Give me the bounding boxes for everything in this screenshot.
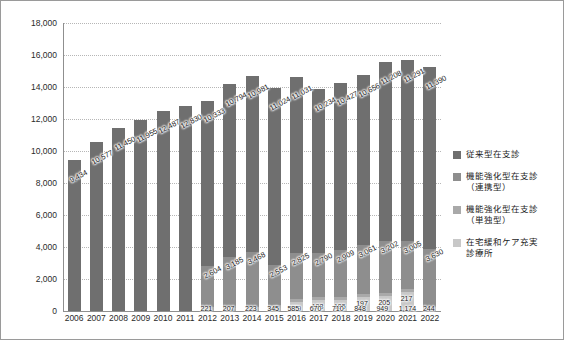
bar-segment — [246, 252, 259, 307]
bar-segment — [379, 241, 392, 292]
bar-segment — [201, 101, 214, 266]
bar-segment — [201, 266, 214, 308]
bar-segment — [334, 250, 347, 297]
bar-segment — [290, 77, 303, 253]
bar-segment — [423, 67, 436, 249]
bar-column[interactable] — [246, 76, 259, 311]
bar-column[interactable] — [423, 67, 436, 311]
bar-column[interactable] — [312, 89, 325, 311]
bar-column[interactable] — [201, 101, 214, 312]
x-axis-tick-label: 2009 — [131, 313, 150, 323]
x-axis-tick-label: 2013 — [220, 313, 239, 323]
bar-segment — [290, 253, 303, 298]
bar-segment — [312, 253, 325, 298]
bar-segment — [379, 296, 392, 311]
bar-segment — [290, 302, 303, 311]
bar-column[interactable] — [223, 84, 236, 311]
bar-column[interactable] — [334, 83, 347, 311]
bar-segment — [268, 88, 281, 264]
x-axis-tick-label: 2006 — [65, 313, 84, 323]
bar-segment — [423, 307, 436, 311]
bar-segment — [246, 76, 259, 252]
legend-swatch-icon — [453, 239, 461, 247]
y-axis-tick-label: 6,000 — [36, 210, 57, 220]
x-axis-tick-label: 2015 — [265, 313, 284, 323]
bar-segment — [401, 241, 414, 289]
y-axis-tick-label: 0 — [52, 306, 57, 316]
y-axis-tick-label: 14,000 — [31, 82, 57, 92]
gridline — [63, 311, 441, 312]
x-axis-tick-label: 2007 — [87, 313, 106, 323]
bar-column[interactable] — [268, 88, 281, 311]
bar-series-layer: 9,43410,57711,45011,95512,48712,83010,33… — [63, 23, 441, 311]
legend-item-label: 在宅緩和ケア充実診療所 — [466, 237, 538, 259]
y-axis-tick-label: 10,000 — [31, 146, 57, 156]
bar-segment — [223, 308, 236, 311]
bar-column[interactable] — [179, 106, 192, 311]
bar-segment — [268, 305, 281, 311]
x-axis-tick-label: 2018 — [331, 313, 350, 323]
x-axis-tick-label: 2016 — [287, 313, 306, 323]
chart-container: 02,0004,0006,0008,00010,00012,00014,0001… — [0, 0, 564, 340]
legend-item-label: 機能強化型在支診（連携型） — [466, 171, 538, 193]
bar-segment — [357, 245, 370, 294]
x-axis-tick-label: 2017 — [309, 313, 328, 323]
legend-item[interactable]: 従来型在支診 — [453, 149, 561, 160]
bar-segment — [223, 84, 236, 257]
bar-segment — [268, 265, 281, 306]
legend-item-label: 機能強化型在支診（単独型） — [466, 204, 538, 226]
x-axis-tick-label: 2010 — [154, 313, 173, 323]
x-axis-tick-label: 2014 — [243, 313, 262, 323]
bar-segment — [246, 307, 259, 311]
bar-segment — [312, 300, 325, 311]
x-axis-tick-label: 2020 — [376, 313, 395, 323]
x-axis-tick-labels: 2006200720082009201020112012201320142015… — [63, 313, 441, 329]
bar-column[interactable] — [290, 77, 303, 311]
legend-swatch-icon — [453, 206, 461, 214]
x-axis-tick-label: 2022 — [420, 313, 439, 323]
bar-segment — [357, 297, 370, 311]
bar-segment — [357, 75, 370, 245]
legend-item[interactable]: 機能強化型在支診（連携型） — [453, 171, 561, 193]
y-axis-tick-label: 18,000 — [31, 18, 57, 28]
bar-column[interactable] — [68, 160, 81, 311]
bar-segment — [379, 62, 392, 241]
y-axis-tick-labels: 02,0004,0006,0008,00010,00012,00014,0001… — [1, 23, 63, 311]
bar-segment — [90, 142, 103, 311]
y-axis-tick-label: 16,000 — [31, 50, 57, 60]
bar-segment — [112, 128, 125, 311]
plot-area: 9,43410,57711,45011,95512,48712,83010,33… — [63, 23, 441, 311]
bar-segment — [423, 249, 436, 307]
bar-column[interactable] — [112, 128, 125, 311]
y-axis-tick-label: 4,000 — [36, 242, 57, 252]
bar-segment — [157, 111, 170, 311]
legend-item-label: 従来型在支診 — [466, 149, 520, 160]
bar-segment — [401, 60, 414, 241]
x-axis-tick-label: 2012 — [198, 313, 217, 323]
x-axis-tick-label: 2008 — [109, 313, 128, 323]
x-axis-tick-label: 2019 — [354, 313, 373, 323]
legend-swatch-icon — [453, 151, 461, 159]
bar-column[interactable] — [379, 62, 392, 311]
bar-column[interactable] — [357, 75, 370, 311]
x-axis-tick-label: 2021 — [398, 313, 417, 323]
bar-segment — [68, 160, 81, 311]
bar-segment — [334, 300, 347, 311]
bar-segment — [179, 106, 192, 311]
x-axis-tick-label: 2011 — [176, 313, 194, 323]
bar-segment — [134, 120, 147, 311]
bar-column[interactable] — [90, 142, 103, 311]
bar-segment — [334, 83, 347, 250]
y-axis-tick-label: 8,000 — [36, 178, 57, 188]
y-axis-tick-label: 2,000 — [36, 274, 57, 284]
bar-segment — [223, 257, 236, 308]
legend-swatch-icon — [453, 173, 461, 181]
bar-column[interactable] — [134, 120, 147, 311]
bar-column[interactable] — [157, 111, 170, 311]
y-axis-tick-label: 12,000 — [31, 114, 57, 124]
bar-segment — [401, 292, 414, 311]
legend-item[interactable]: 機能強化型在支診（単独型） — [453, 204, 561, 226]
chart-legend: 従来型在支診機能強化型在支診（連携型）機能強化型在支診（単独型）在宅緩和ケア充実… — [453, 149, 561, 270]
legend-item[interactable]: 在宅緩和ケア充実診療所 — [453, 237, 561, 259]
bar-column[interactable] — [401, 60, 414, 311]
